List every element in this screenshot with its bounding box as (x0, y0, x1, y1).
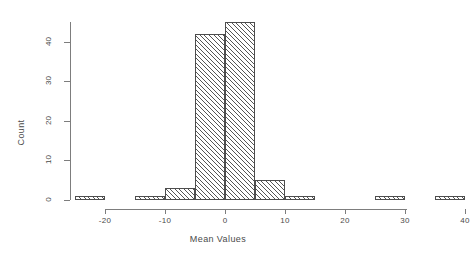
histogram-bar (285, 196, 315, 200)
histogram-bar (165, 188, 195, 200)
histogram-bar (195, 34, 225, 200)
histogram-bar (435, 196, 465, 200)
x-tick-label: 40 (450, 216, 474, 225)
histogram-bar (75, 196, 105, 200)
histogram-bar (255, 180, 285, 200)
x-tick (465, 209, 466, 214)
histogram-bar (225, 22, 255, 200)
histogram-bar (375, 196, 405, 200)
histogram-bar (135, 196, 165, 200)
